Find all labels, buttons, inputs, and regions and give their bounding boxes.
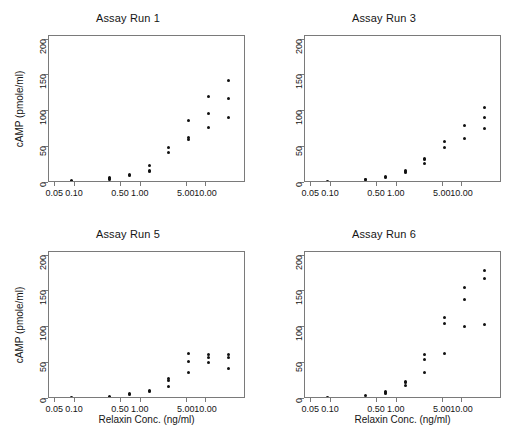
x-axis-tick-label: 0.10 <box>65 404 83 414</box>
data-point <box>227 367 230 370</box>
y-axis-title: cAMP (pmole/ml) <box>14 286 25 363</box>
x-axis-tick-label: 0.05 <box>46 188 64 198</box>
y-axis-tick-label: 0 <box>294 398 304 403</box>
x-axis-tick-label: 5.00 <box>433 404 451 414</box>
data-point <box>423 162 426 165</box>
assay-runs-figure: Assay Run 1050100150200cAMP (pmole/ml)0.… <box>0 0 512 432</box>
data-point <box>128 392 131 395</box>
data-point <box>227 356 230 359</box>
x-axis-tick-label: 0.10 <box>65 188 83 198</box>
panel-title: Assay Run 3 <box>256 12 512 24</box>
data-point <box>404 384 407 387</box>
x-axis-tick <box>376 182 377 186</box>
data-point <box>326 396 329 397</box>
y-axis-tick-label: 150 <box>38 74 48 89</box>
x-axis-tick <box>140 398 141 402</box>
data-point <box>70 179 73 181</box>
x-axis-tick-label: 10.00 <box>450 188 473 198</box>
x-axis-tick-label: 1.00 <box>387 404 405 414</box>
x-axis-tick <box>205 398 206 402</box>
y-axis-tick-label: 200 <box>294 39 304 54</box>
x-axis-tick <box>186 398 187 402</box>
y-axis-tick-label: 100 <box>38 110 48 125</box>
x-axis-tick <box>54 182 55 186</box>
data-point <box>227 97 230 100</box>
data-point <box>108 395 111 397</box>
x-axis-tick <box>205 182 206 186</box>
y-axis-tick-label: 200 <box>38 255 48 270</box>
x-axis-tick <box>120 182 121 186</box>
y-axis-tick-label: 50 <box>38 362 48 372</box>
panel-title: Assay Run 5 <box>0 228 256 240</box>
data-point <box>384 175 387 178</box>
y-axis: 050100150200 <box>44 35 48 182</box>
y-axis-tick-label: 50 <box>294 146 304 156</box>
data-area <box>49 36 244 181</box>
x-axis-tick-label: 10.00 <box>194 404 217 414</box>
data-point <box>364 394 367 397</box>
y-axis-tick-label: 100 <box>38 326 48 341</box>
x-axis-tick-label: 5.00 <box>177 404 195 414</box>
y-axis: 050100150200 <box>300 35 304 182</box>
plot-panel-4: Assay Run 60501001502000.050.100.501.005… <box>256 216 512 432</box>
data-point <box>207 112 210 115</box>
x-axis-tick-label: 1.00 <box>387 188 405 198</box>
plot-panel-2: Assay Run 30501001502000.050.100.501.005… <box>256 0 512 216</box>
data-point <box>326 180 329 181</box>
y-axis-tick-label: 200 <box>38 39 48 54</box>
plot-frame <box>48 35 245 182</box>
x-axis-tick-label: 0.50 <box>111 404 129 414</box>
plot-frame <box>304 35 501 182</box>
data-area <box>305 252 500 397</box>
data-point <box>404 169 407 172</box>
x-axis-tick <box>396 182 397 186</box>
x-axis-tick-label: 0.50 <box>367 188 385 198</box>
x-axis: 0.050.100.501.005.0010.00 <box>304 182 501 187</box>
data-point <box>443 146 446 149</box>
y-axis-tick-label: 200 <box>294 255 304 270</box>
data-point <box>227 79 230 82</box>
x-axis-tick <box>120 398 121 402</box>
x-axis-tick <box>461 398 462 402</box>
data-point <box>483 277 486 280</box>
data-point <box>483 269 486 272</box>
x-axis-tick <box>74 182 75 186</box>
x-axis-tick <box>442 398 443 402</box>
x-axis-tick-label: 5.00 <box>177 188 195 198</box>
x-axis-tick-label: 0.10 <box>321 188 339 198</box>
data-point <box>463 325 466 328</box>
y-axis: 050100150200 <box>300 251 304 398</box>
data-area <box>49 252 244 397</box>
data-point <box>148 164 151 167</box>
y-axis-tick-label: 0 <box>38 398 48 403</box>
y-axis-tick-label: 100 <box>294 326 304 341</box>
y-axis-tick-label: 150 <box>294 74 304 89</box>
x-axis-tick-label: 0.10 <box>321 404 339 414</box>
data-point <box>167 385 170 388</box>
x-axis-tick-label: 10.00 <box>450 404 473 414</box>
y-axis-tick-label: 0 <box>38 182 48 187</box>
y-axis-tick-label: 0 <box>294 182 304 187</box>
x-axis-tick-label: 5.00 <box>433 188 451 198</box>
x-axis-tick <box>54 398 55 402</box>
data-point <box>148 389 151 392</box>
data-point <box>167 151 170 154</box>
data-point <box>227 353 230 356</box>
data-point <box>187 119 190 122</box>
data-point <box>227 116 230 119</box>
x-axis: 0.050.100.501.005.0010.00 <box>304 398 501 403</box>
y-axis-tick-label: 50 <box>38 146 48 156</box>
plot-frame <box>304 251 501 398</box>
x-axis-tick <box>310 182 311 186</box>
x-axis: 0.050.100.501.005.0010.00 <box>48 182 245 187</box>
x-axis-tick <box>310 398 311 402</box>
x-axis-title: Relaxin Conc. (ng/ml) <box>304 414 501 425</box>
data-point <box>187 360 190 363</box>
x-axis-tick <box>74 398 75 402</box>
data-point <box>443 316 446 319</box>
data-point <box>483 323 486 326</box>
x-axis-title: Relaxin Conc. (ng/ml) <box>48 414 245 425</box>
x-axis-tick-label: 1.00 <box>131 188 149 198</box>
data-point <box>463 137 466 140</box>
x-axis-tick <box>140 182 141 186</box>
